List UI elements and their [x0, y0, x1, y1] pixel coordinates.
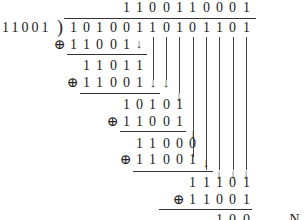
result-row: 1 1 0 0 0: [0, 136, 305, 152]
digit: 0: [226, 192, 239, 208]
result-row: 1 1 0 1 1: [0, 58, 305, 74]
digit: 1: [186, 175, 199, 191]
quotient-digit: 0: [160, 0, 173, 16]
digit: 1: [133, 136, 146, 152]
digit: 0: [160, 114, 173, 130]
digit: 1: [120, 58, 133, 74]
quotient-digit: 1: [173, 0, 186, 16]
digit: 0: [133, 97, 146, 113]
digit: 1: [240, 192, 253, 208]
quotient-digit: 0: [146, 0, 159, 16]
digit: 0: [120, 75, 133, 91]
subtraction-line: [67, 54, 147, 55]
digit: 0: [160, 152, 173, 168]
dividend-digit: 1: [173, 20, 186, 36]
digit: 1: [133, 75, 146, 91]
subtraction-line: [159, 209, 252, 210]
digit: 1: [173, 114, 186, 130]
digit: 1: [200, 175, 213, 191]
arrow-down-icon: ↓: [147, 77, 159, 89]
quotient-digit: 1: [133, 0, 146, 16]
digit: 0: [107, 58, 120, 74]
dividend-digit: 1: [240, 20, 253, 36]
dividend-digit: 0: [80, 20, 93, 36]
dividend-row: 1 0 1 0 0 1 1 0 1 0 1 1 0 1: [0, 20, 305, 36]
digit: 1: [133, 152, 146, 168]
remainder-digit: 0: [240, 212, 253, 220]
arrow-down-icon: ↓: [133, 38, 145, 50]
digit: 1: [173, 97, 186, 113]
digit: 1: [120, 37, 133, 53]
dividend-digit: 1: [200, 20, 213, 36]
digit: 1: [133, 114, 146, 130]
digit: 0: [173, 136, 186, 152]
digit: 1: [80, 37, 93, 53]
dividend-digit: 1: [133, 20, 146, 36]
digit: 1: [120, 97, 133, 113]
digit: 0: [93, 37, 106, 53]
digit: 0: [186, 136, 199, 152]
dividend-digit: 0: [160, 20, 173, 36]
digit: 1: [146, 152, 159, 168]
xor-operand-row: 1 1 0 0 1: [0, 114, 305, 130]
dividend-digit: 1: [67, 20, 80, 36]
quotient-digit: 1: [120, 0, 133, 16]
result-row: 1 0 1 0 1: [0, 97, 305, 113]
quotient-digit: 1: [186, 0, 199, 16]
dividend-digit: 0: [186, 20, 199, 36]
quotient-digit: 0: [200, 0, 213, 16]
digit: 0: [160, 136, 173, 152]
digit: 1: [120, 114, 133, 130]
digit: 0: [213, 192, 226, 208]
digit: 0: [160, 97, 173, 113]
digit: 1: [93, 58, 106, 74]
xor-operand-row: 1 1 0 0 1: [0, 192, 305, 208]
quotient-digit: 0: [213, 0, 226, 16]
remainder-label: → N: [272, 212, 300, 220]
dividend-digit: 0: [226, 20, 239, 36]
digit: 1: [67, 37, 80, 53]
digit: 1: [93, 75, 106, 91]
xor-operand-row: 1 1 0 0 1: [0, 37, 305, 53]
digit: 0: [226, 175, 239, 191]
digit: 1: [133, 58, 146, 74]
result-row: 1 1 1 0 1: [0, 175, 305, 191]
digit: 0: [173, 152, 186, 168]
xor-operand-row: 1 1 0 0 1: [0, 152, 305, 168]
digit: 0: [107, 75, 120, 91]
dividend-digit: 1: [93, 20, 106, 36]
quotient-row: 1 1 0 0 1 1 0 0 0 1: [0, 0, 305, 16]
quotient-digit: 0: [226, 0, 239, 16]
subtraction-line: [120, 131, 186, 132]
division-bar: [64, 18, 256, 19]
subtraction-line: [80, 93, 160, 94]
arrow-down-icon: ↓: [160, 77, 172, 89]
remainder-digit: 0: [226, 212, 239, 220]
subtraction-line: [133, 171, 213, 172]
dividend-digit: 1: [146, 20, 159, 36]
remainder-row: 1 0 0 → N: [0, 212, 305, 220]
remainder-digit: 1: [213, 212, 226, 220]
dividend-digit: 1: [213, 20, 226, 36]
dividend-digit: 0: [107, 20, 120, 36]
digit: 1: [240, 175, 253, 191]
digit: 1: [80, 75, 93, 91]
digit: 0: [146, 114, 159, 130]
arrow-down-icon: ↓: [200, 157, 212, 169]
digit: 1: [200, 192, 213, 208]
digit: 1: [146, 97, 159, 113]
digit: 1: [80, 58, 93, 74]
digit: 1: [146, 136, 159, 152]
digit: 1: [186, 192, 199, 208]
digit: 1: [213, 175, 226, 191]
digit: 1: [186, 152, 199, 168]
quotient-digit: 1: [240, 0, 253, 16]
dividend-digit: 0: [120, 20, 133, 36]
digit: 0: [107, 37, 120, 53]
